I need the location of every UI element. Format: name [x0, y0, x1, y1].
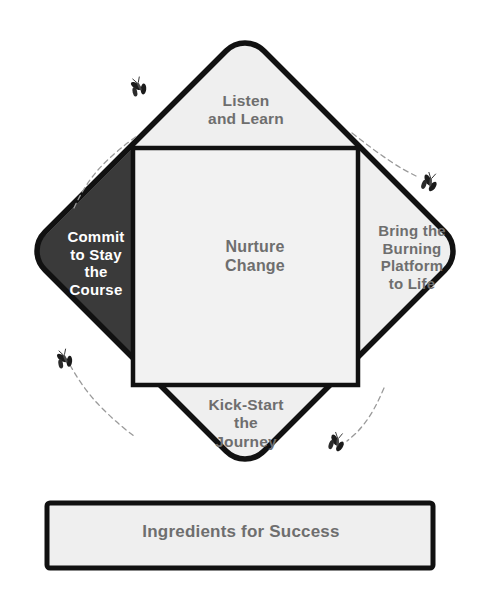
quadrant-label-commit-to-stay-the-course: Commit to Stay the Course: [44, 228, 148, 299]
quadrant-label-bring-the-burning-platform-to-life: Bring the Burning Platform to Life: [356, 222, 468, 293]
center-label-nurture-change: Nurture Change: [188, 238, 322, 276]
quadrant-label-listen-and-learn: Listen and Learn: [178, 92, 314, 129]
banner-label-ingredients-for-success: Ingredients for Success: [60, 522, 422, 542]
butterfly-icon-bottom-left: [54, 348, 134, 436]
quadrant-label-kick-start-the-journey: Kick-Start the Journey: [182, 396, 310, 451]
butterfly-icon-bottom-right: [327, 388, 384, 453]
diagram-canvas: Listen and Learn Commit to Stay the Cour…: [0, 0, 483, 595]
